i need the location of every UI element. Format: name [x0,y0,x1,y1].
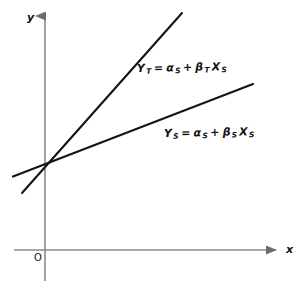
eqn-top-x-var: X [209,60,221,73]
figure-canvas [0,0,305,290]
eqn-top-equals: = [151,61,166,74]
x-axis-label: x [286,243,293,256]
eqn-bottom-x-var: X [237,125,249,138]
eqn-bottom-plus: + [208,126,223,139]
eqn-top-intercept-var: α [166,61,175,74]
eqn-top-plus: + [180,61,195,74]
eqn-top-lhs-var: Y [137,62,146,75]
eqn-bottom-x-sub: S [249,130,255,139]
eqn-top-slope-sub: T [204,66,209,75]
eqn-top-x-sub: S [221,66,227,75]
eqn-bottom-intercept-var: α [193,126,202,139]
eqn-bottom-lhs-var: Y [164,127,173,140]
equation-label-ys: YS=αS+βSXS [164,125,255,141]
regression-line-yt [22,13,182,193]
eqn-bottom-slope-var: β [222,126,231,139]
eqn-bottom-equals: = [179,126,194,139]
regression-lines-figure: y x O YT=αS+βTXS YS=αS+βSXS [0,0,305,290]
equation-label-yt: YT=αS+βTXS [137,60,227,76]
origin-label: O [34,252,42,263]
eqn-bottom-lhs-sub: S [173,132,179,141]
y-axis-label: y [27,11,34,24]
